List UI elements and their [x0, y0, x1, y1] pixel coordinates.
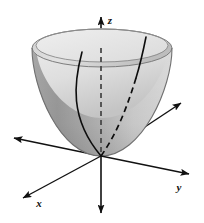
- axis-label-y: y: [175, 181, 182, 193]
- axis-label-z: z: [107, 14, 113, 26]
- axes-front-layer: [23, 156, 189, 213]
- axis-y-positive-ray: [101, 156, 189, 174]
- paraboloid-diagram-canvas: z y x: [0, 0, 204, 223]
- paraboloid-surface: [32, 29, 172, 157]
- axis-label-x: x: [35, 197, 42, 209]
- axis-x-positive-ray: [23, 156, 101, 198]
- paraboloid-figure: z y x: [0, 0, 204, 223]
